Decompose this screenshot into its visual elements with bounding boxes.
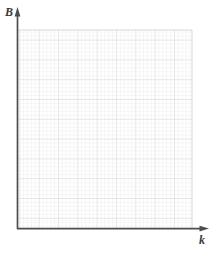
- x-axis-label: k: [199, 234, 205, 246]
- x-axis-arrowhead-icon: [200, 226, 210, 232]
- grid-region: [18, 30, 192, 228]
- graph-figure: B k: [0, 0, 217, 253]
- y-axis-arrowhead-icon: [15, 7, 21, 17]
- graph-paper-grid: [18, 30, 192, 228]
- plot-canvas: [0, 0, 217, 253]
- y-axis-label: B: [5, 6, 13, 18]
